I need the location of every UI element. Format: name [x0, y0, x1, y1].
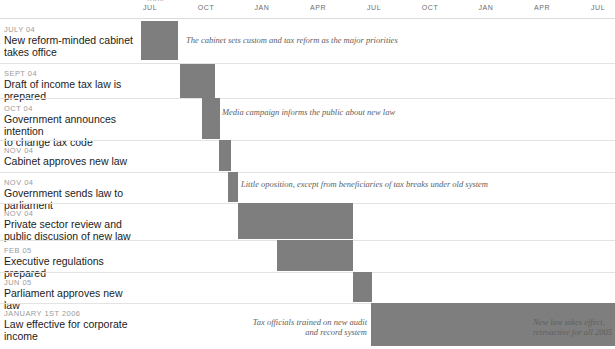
axis-tick-5: OCT — [422, 4, 439, 11]
gantt-bar[interactable] — [228, 172, 238, 202]
task-date: JUN 05 — [4, 278, 136, 287]
gantt-bar[interactable] — [180, 64, 215, 98]
gantt-bar[interactable] — [202, 98, 220, 139]
gantt-row[interactable]: OCT 04Government announces intention to … — [0, 98, 615, 140]
task-event-name: Law effective for corporate income — [4, 319, 136, 342]
task-date: NOV 04 — [4, 146, 136, 155]
task-date: NOV 04 — [4, 209, 136, 218]
gantt-bar[interactable] — [219, 140, 231, 171]
gantt-chart: 2004 JULOCTJANAPRJULOCTJANAPRJUL JULY 04… — [0, 0, 615, 349]
gantt-annotation: The cabinet sets custom and tax reform a… — [186, 35, 486, 45]
axis-tick-2: JAN — [254, 4, 269, 11]
axis-tick-3: APR — [310, 4, 326, 11]
gantt-annotation: New law takes effect, retroactive for al… — [533, 317, 615, 337]
gantt-row[interactable]: JUN 05Parliament approves new law — [0, 272, 615, 303]
task-date: SEPT 04 — [4, 69, 136, 78]
axis-tick-6: JAN — [478, 4, 493, 11]
task-event-name: Private sector review and public discusi… — [4, 219, 136, 242]
gantt-annotation: Little oposition, except from beneficiar… — [241, 179, 571, 189]
row-divider — [0, 63, 615, 64]
axis-tick-8: JUL — [591, 4, 605, 11]
task-date: OCT 04 — [4, 104, 136, 113]
gantt-row[interactable]: NOV 04Cabinet approves new law — [0, 140, 615, 172]
task-date: JANUARY 1ST 2006 — [4, 309, 136, 318]
row-divider — [0, 272, 615, 273]
timeline-axis: 2004 JULOCTJANAPRJULOCTJANAPRJUL — [0, 0, 615, 18]
axis-tick-1: OCT — [198, 4, 215, 11]
gantt-row[interactable]: SEPT 04Draft of income tax law is prepar… — [0, 63, 615, 98]
row-divider — [0, 18, 615, 19]
row-divider — [0, 172, 615, 173]
axis-tick-4: JUL — [367, 4, 381, 11]
task-event-name: New reform-minded cabinet takes office — [4, 35, 136, 58]
axis-tick-0: JUL — [143, 4, 157, 11]
row-divider — [0, 140, 615, 141]
task-label-cell: JANUARY 1ST 2006Law effective for corpor… — [4, 309, 140, 342]
gantt-bar[interactable] — [238, 203, 353, 239]
gantt-bar[interactable] — [141, 21, 178, 60]
gantt-annotation: Tax officials trained on new audit and r… — [232, 317, 367, 337]
gantt-annotation: Media campaign informs the public about … — [222, 107, 472, 117]
task-date: JULY 04 — [4, 25, 136, 34]
task-label-cell: NOV 04Cabinet approves new law — [4, 146, 140, 168]
row-divider — [0, 98, 615, 99]
task-date: FEB 05 — [4, 246, 136, 255]
axis-tick-7: APR — [534, 4, 550, 11]
gantt-bar[interactable] — [277, 240, 353, 271]
task-event-name: Cabinet approves new law — [4, 156, 136, 168]
axis-year-label-partial: 2004 — [145, 0, 164, 1]
gantt-bar[interactable] — [353, 272, 372, 302]
task-date: NOV 04 — [4, 178, 136, 187]
task-label-cell: JULY 04New reform-minded cabinet takes o… — [4, 25, 140, 58]
task-label-cell: NOV 04Private sector review and public d… — [4, 209, 140, 242]
